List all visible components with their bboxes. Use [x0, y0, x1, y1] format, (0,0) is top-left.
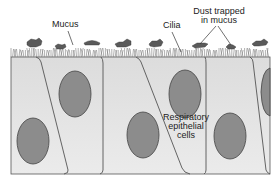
cells-label-line3: cells [158, 131, 214, 140]
cilia-label: Cilia [163, 21, 181, 30]
dust-particle [115, 39, 131, 47]
mucus-leader [68, 31, 73, 45]
dust-leader-2 [218, 26, 231, 45]
mucus-clumps [27, 38, 268, 49]
nucleus [17, 118, 49, 164]
nucleus [59, 71, 91, 117]
dust-particle [55, 44, 66, 49]
cells-label: Respiratory epithelial cells [158, 113, 214, 140]
nucleus [127, 112, 159, 158]
nucleus [214, 113, 246, 159]
dust-particle [149, 39, 163, 47]
dust-label-line2: in mucus [189, 16, 249, 25]
dust-leader-1 [200, 26, 216, 44]
mucus-label: Mucus [52, 20, 79, 29]
dust-label: Dust trapped in mucus [189, 7, 249, 25]
dust-particle [84, 41, 100, 46]
epithelium-diagram [0, 0, 279, 180]
cilia [11, 48, 269, 57]
nucleus [169, 70, 201, 118]
dust-particle [252, 39, 268, 46]
dust-particle [27, 38, 42, 47]
